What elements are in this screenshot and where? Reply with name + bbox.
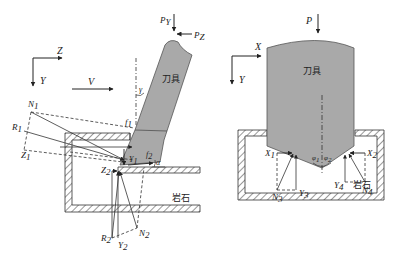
f1-label: f1 [125, 117, 132, 129]
gamma-label: γ [139, 85, 143, 94]
loads: PY PZ [159, 14, 206, 42]
axis-y-label: Y [40, 75, 47, 86]
left-tool-label: 刀具 [162, 74, 180, 84]
right-tool-label: 刀具 [303, 66, 321, 76]
y4-label: Y4 [334, 180, 344, 192]
n1-label: N1 [27, 99, 39, 111]
left-rock-label: 岩石 [172, 192, 190, 203]
y2-label: Y2 [118, 240, 128, 252]
z2-label: Z2 [101, 165, 111, 177]
z1-label: Z1 [21, 150, 31, 162]
velocity-label: V [88, 76, 96, 87]
axis-x-label: X [254, 41, 262, 52]
n3-label: N3 [271, 192, 283, 204]
pz-label: PZ [193, 30, 206, 42]
velocity-arrow: V [72, 76, 113, 89]
r2-label: R2 [100, 233, 112, 245]
x1-label: X1 [264, 148, 275, 160]
axis-y-label-right: Y [239, 74, 246, 85]
x2-label: X2 [366, 148, 378, 160]
right-axes: X Y [232, 41, 262, 85]
n2-label: N2 [138, 228, 150, 240]
py-label: PY [159, 15, 172, 27]
load-p: P [305, 14, 318, 33]
right-tool: 刀具 φ1 φ2 [267, 41, 354, 176]
left-tool: 刀具 [120, 41, 192, 165]
upper-force-triangle: N1 R1 Z1 f1 [11, 99, 134, 162]
rock-cutting-force-diagram: Z Y V 岩石 刀具 γ [0, 0, 395, 257]
left-panel: Z Y V 岩石 刀具 γ [11, 14, 206, 252]
r1-label: R1 [11, 122, 22, 134]
p-label: P [305, 15, 312, 26]
left-axes: Z Y [33, 45, 63, 86]
axis-z-label: Z [57, 45, 63, 56]
right-panel: X Y P 岩石 刀具 φ1 φ2 X1 [232, 14, 384, 204]
